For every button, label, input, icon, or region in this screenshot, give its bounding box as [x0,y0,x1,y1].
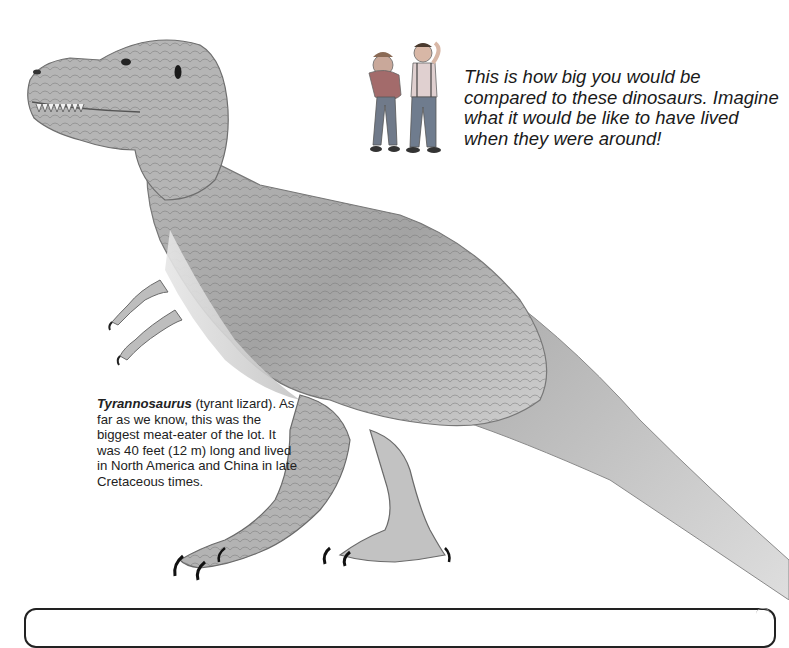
dinosaur-arms [109,280,182,365]
dinosaur-head [28,40,228,200]
box-corner-tab [756,608,770,615]
scale-comparison-caption: This is how big you would be compared to… [464,67,784,149]
child-bending [369,52,401,152]
children-scale-figures [355,35,455,165]
species-name: Tyrannosaurus [97,396,192,411]
species-caption: Tyrannosaurus (tyrant lizard). As far as… [97,396,302,489]
bottom-info-box [24,608,776,648]
child-standing [406,43,441,153]
eye-icon [121,59,131,66]
